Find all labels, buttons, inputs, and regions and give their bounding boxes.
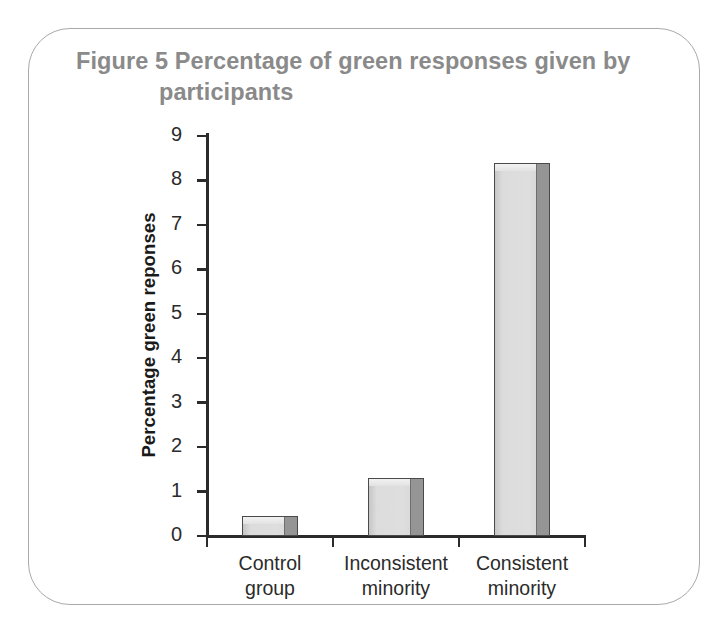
y-axis-line	[206, 133, 209, 538]
y-axis-tick	[197, 268, 207, 270]
x-axis-tick	[206, 536, 208, 547]
bar-chart-plot: Percentage green reponses 0123456789 Con…	[0, 0, 728, 641]
x-axis-tick	[332, 536, 334, 547]
bar-side-face	[536, 164, 549, 535]
y-axis-tick	[197, 446, 207, 448]
y-axis-tick	[197, 313, 207, 315]
y-axis-tick-label: 8	[156, 167, 182, 190]
y-axis-tick	[197, 401, 207, 403]
bar	[368, 478, 424, 536]
y-axis-tick	[197, 179, 207, 181]
x-axis-tick	[458, 536, 460, 547]
x-axis-category-label-line: Consistent	[437, 551, 607, 576]
y-axis-tick-label: 5	[156, 301, 182, 324]
y-axis-tick-label: 1	[156, 479, 182, 502]
y-axis-tick-label: 9	[156, 123, 182, 146]
x-axis-category-label-line: minority	[437, 576, 607, 601]
bar-front-face	[242, 516, 298, 536]
x-axis-category-label: Consistentminority	[437, 551, 607, 601]
bar-front-face	[494, 163, 550, 536]
x-axis-tick	[584, 536, 586, 547]
y-axis-tick	[197, 224, 207, 226]
y-axis-tick	[197, 135, 207, 137]
bar	[494, 163, 550, 536]
y-axis-tick-label: 2	[156, 434, 182, 457]
y-axis-tick-label: 6	[156, 256, 182, 279]
bar-front-face	[368, 478, 424, 536]
bar-side-face	[284, 517, 297, 535]
y-axis-tick-label: 3	[156, 390, 182, 413]
bar	[242, 516, 298, 536]
y-axis-tick	[197, 490, 207, 492]
y-axis-tick-label: 7	[156, 212, 182, 235]
y-axis-tick	[197, 357, 207, 359]
y-axis-tick-label: 4	[156, 345, 182, 368]
bar-side-face	[410, 479, 423, 535]
y-axis-tick-label: 0	[156, 523, 182, 546]
